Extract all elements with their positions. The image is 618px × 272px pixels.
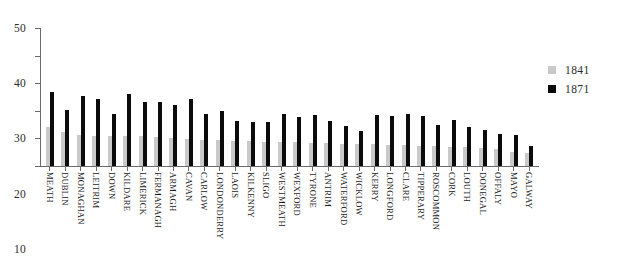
bar-group bbox=[429, 28, 444, 166]
x-axis-tick-slot bbox=[135, 167, 150, 171]
bar-1871 bbox=[328, 121, 332, 166]
bar-group bbox=[475, 28, 490, 166]
legend-item[interactable]: 1841 bbox=[548, 60, 590, 79]
x-axis-label-slot: WATERFORD bbox=[336, 172, 351, 267]
x-axis-tick-label: GALWAY bbox=[524, 172, 534, 209]
x-axis-tick bbox=[173, 167, 174, 171]
x-axis-tick bbox=[266, 167, 267, 171]
bar-series-container bbox=[40, 28, 539, 166]
x-axis-tick bbox=[235, 167, 236, 171]
bar-1871 bbox=[344, 126, 348, 166]
x-axis-tick bbox=[328, 167, 329, 171]
x-axis-tick bbox=[80, 167, 81, 171]
x-axis-label-slot: MAYO bbox=[506, 172, 521, 267]
x-axis-label-slot: FERMANAGH bbox=[150, 172, 165, 267]
x-axis-tick bbox=[529, 167, 530, 171]
x-axis-tick-label: MEATH bbox=[45, 172, 55, 203]
x-axis-tick-label: CAVAN bbox=[184, 172, 194, 201]
bar-1871 bbox=[390, 116, 394, 166]
plot-area: 01020304050 bbox=[40, 28, 539, 166]
x-axis-label-slot: OFFALY bbox=[491, 172, 506, 267]
x-axis-tick-slot bbox=[522, 167, 537, 171]
x-axis-tick-slot bbox=[444, 167, 459, 171]
x-axis-label-slot: SLIGO bbox=[259, 172, 274, 267]
legend-label-1841: 1841 bbox=[565, 64, 590, 76]
bar-1871 bbox=[127, 94, 131, 166]
bar-group bbox=[398, 28, 413, 166]
x-axis-tick bbox=[359, 167, 360, 171]
x-axis-tick-label: KILDARE bbox=[122, 172, 132, 211]
legend: 1841 1871 bbox=[548, 60, 590, 98]
x-axis-label-slot: ROSCOMMON bbox=[429, 172, 444, 267]
bar-1871 bbox=[406, 114, 410, 166]
legend-swatch-1841-icon bbox=[548, 66, 556, 74]
bar-1871 bbox=[421, 116, 425, 166]
bar-group bbox=[522, 28, 537, 166]
bar-1871 bbox=[436, 125, 440, 166]
x-axis-tick-label: CARLOW bbox=[199, 172, 209, 210]
x-axis-tick-slot bbox=[506, 167, 521, 171]
x-axis-label-slot: LONDONDERRY bbox=[212, 172, 227, 267]
x-axis-tick-slot bbox=[166, 167, 181, 171]
x-axis-tick-label: DONEGAL bbox=[478, 172, 488, 215]
x-axis-tick-slot bbox=[351, 167, 366, 171]
x-axis-tick bbox=[142, 167, 143, 171]
bar-group bbox=[506, 28, 521, 166]
bar-group bbox=[444, 28, 459, 166]
x-axis-tick-label: LOUTH bbox=[462, 172, 472, 202]
bar-group bbox=[42, 28, 57, 166]
x-axis-tick bbox=[250, 167, 251, 171]
x-axis-label-slot: CAVAN bbox=[181, 172, 196, 267]
y-axis-tick-label: 20 bbox=[14, 188, 26, 200]
x-axis-tick-slot bbox=[119, 167, 134, 171]
x-axis-tick-label: TYRONE bbox=[308, 172, 318, 208]
x-axis-label-slot: LOUTH bbox=[460, 172, 475, 267]
y-axis-tick-label: 40 bbox=[14, 77, 26, 89]
bar-1871 bbox=[375, 115, 379, 166]
x-axis-tick bbox=[374, 167, 375, 171]
bar-group bbox=[491, 28, 506, 166]
bar-1871 bbox=[514, 135, 518, 166]
x-axis-tick-slot bbox=[367, 167, 382, 171]
x-axis-tick-label: MAYO bbox=[509, 172, 519, 198]
x-axis-tick-label: TIPPERARY bbox=[416, 172, 426, 220]
bar-group bbox=[336, 28, 351, 166]
x-axis-tick bbox=[219, 167, 220, 171]
y-axis-tick-label: 50 bbox=[14, 22, 26, 34]
bar-group bbox=[212, 28, 227, 166]
x-axis-tick-slot bbox=[181, 167, 196, 171]
x-axis-tick-slot bbox=[274, 167, 289, 171]
x-axis-tick bbox=[111, 167, 112, 171]
x-axis-tick-label: CLARE bbox=[401, 172, 411, 201]
bar-1871 bbox=[498, 134, 502, 166]
x-axis-tick bbox=[343, 167, 344, 171]
bar-1871 bbox=[143, 102, 147, 166]
x-axis-tick-slot bbox=[104, 167, 119, 171]
x-axis-tick-label: WESTMEATH bbox=[277, 172, 287, 227]
x-axis-tick bbox=[188, 167, 189, 171]
x-axis-label-slot: CORK bbox=[444, 172, 459, 267]
x-axis-tick-slot bbox=[259, 167, 274, 171]
x-axis-label-slot: CLARE bbox=[398, 172, 413, 267]
x-axis-tick-label: WICKLOW bbox=[354, 172, 364, 216]
x-axis-label-slot: LEITRIM bbox=[88, 172, 103, 267]
x-axis-tick-slot bbox=[336, 167, 351, 171]
y-axis-tick-label: 10 bbox=[14, 243, 26, 255]
x-axis-tick-label: WATERFORD bbox=[339, 172, 349, 225]
x-axis-labels: MEATHDUBLINMONAGHANLEITRIMDOWNKILDARELIM… bbox=[40, 172, 539, 267]
x-axis-label-slot: DUBLIN bbox=[57, 172, 72, 267]
x-axis-label-slot: ANTRIM bbox=[320, 172, 335, 267]
x-axis-tick-label: WEXFORD bbox=[292, 172, 302, 216]
bar-group bbox=[382, 28, 397, 166]
bar-group bbox=[305, 28, 320, 166]
bar-1871 bbox=[297, 117, 301, 166]
bar-1871 bbox=[266, 122, 270, 166]
x-axis-tick-slot bbox=[197, 167, 212, 171]
legend-item[interactable]: 1871 bbox=[548, 79, 590, 98]
x-axis-tick bbox=[281, 167, 282, 171]
x-axis-tick-label: ANTRIM bbox=[323, 172, 333, 207]
x-axis-tick-slot bbox=[320, 167, 335, 171]
x-axis-tick-label: OFFALY bbox=[493, 172, 503, 205]
bar-group bbox=[135, 28, 150, 166]
bar-1871 bbox=[467, 127, 471, 166]
